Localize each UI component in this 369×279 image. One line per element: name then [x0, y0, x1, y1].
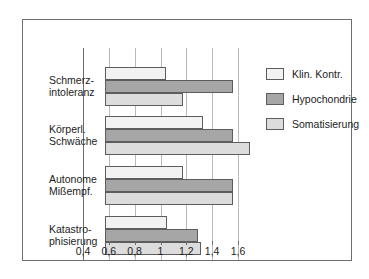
legend-item-0: Klin. Kontr.	[266, 66, 366, 86]
category-label-line: Schmerz-	[49, 74, 107, 87]
category-label-line: intoleranz	[49, 86, 107, 99]
legend-label-klin-kontr: Klin. Kontr.	[292, 66, 343, 82]
legend-swatch-somatisierung	[266, 118, 284, 130]
category-label-line: Katastro-	[49, 223, 107, 236]
bar-1-3	[105, 229, 198, 242]
chart-frame: Schmerz-intoleranzKörperl.SchwächeAutono…	[22, 19, 352, 261]
bar-0-2	[105, 166, 183, 179]
plot-area	[105, 53, 260, 260]
legend-item-1: Hypochondrie	[266, 91, 366, 111]
category-label-3: Katastro-phisierung	[49, 223, 107, 248]
legend-swatch-hypochondrie	[266, 93, 284, 105]
category-label-line: Mißempf.	[49, 185, 107, 198]
category-label-1: Körperl.Schwäche	[49, 123, 107, 148]
bar-0-3	[105, 216, 167, 229]
bar-2-1	[105, 142, 250, 155]
legend-swatch-klin-kontr	[266, 68, 284, 80]
bar-0-0	[105, 67, 166, 80]
bar-2-2	[105, 192, 233, 205]
legend-label-somatisierung: Somatisierung	[292, 116, 359, 132]
chart-figure: Schmerz-intoleranzKörperl.SchwächeAutono…	[0, 0, 369, 279]
category-label-line: Schwäche	[49, 135, 107, 148]
category-label-0: Schmerz-intoleranz	[49, 74, 107, 99]
tick-label-1,6: 1,6	[223, 245, 253, 257]
x-axis-line	[105, 260, 261, 261]
category-axis-labels: Schmerz-intoleranzKörperl.SchwächeAutono…	[49, 53, 103, 260]
legend-label-hypochondrie: Hypochondrie	[292, 91, 357, 107]
bar-0-1	[105, 116, 203, 129]
chart-legend: Klin. Kontr. Hypochondrie Somatisierung	[266, 66, 366, 141]
legend-item-2: Somatisierung	[266, 116, 366, 136]
bar-1-1	[105, 129, 233, 142]
category-label-line: Körperl.	[49, 123, 107, 136]
bar-1-0	[105, 80, 233, 93]
category-label-2: AutonomeMißempf.	[49, 173, 107, 198]
category-label-line: Autonome	[49, 173, 107, 186]
bar-1-2	[105, 179, 233, 192]
bar-2-0	[105, 93, 183, 106]
